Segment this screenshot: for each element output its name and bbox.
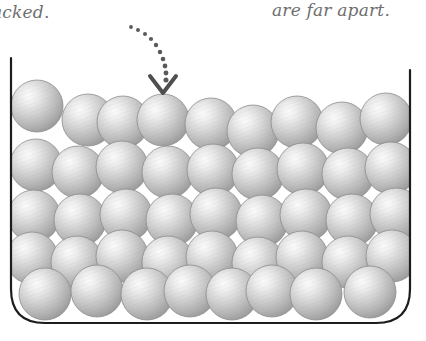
arrowhead-chevron-icon	[150, 76, 176, 93]
sphere-top-row-4	[137, 94, 189, 146]
dotted-arrow-annotation	[129, 25, 176, 93]
trail-dot	[164, 71, 169, 76]
sphere-second-row-6	[232, 148, 284, 200]
trail-dot	[161, 57, 166, 62]
sphere-second-row-3	[96, 141, 148, 193]
sphere-bottom-row-8	[344, 266, 396, 318]
sphere-bottom-row-2	[71, 265, 123, 317]
sphere-top-row-9	[360, 93, 412, 145]
dotted-trail	[129, 25, 168, 82]
figure-canvas: acked. are far apart.	[0, 0, 426, 341]
trail-dot	[136, 28, 140, 32]
particle-packing-illustration	[0, 0, 426, 341]
trail-dot	[129, 25, 133, 29]
sphere-top-row-7	[271, 96, 323, 148]
trail-dot	[149, 37, 153, 41]
sphere-second-row-4	[142, 146, 194, 198]
sphere-top-row-1	[11, 80, 63, 132]
sphere-bottom-row-1	[19, 268, 71, 320]
trail-dot	[158, 50, 163, 55]
trail-dot	[163, 64, 168, 69]
sphere-second-row-7	[277, 143, 329, 195]
sphere-bottom-row-7	[290, 268, 342, 320]
trail-dot	[163, 77, 168, 82]
trail-dot	[143, 32, 147, 36]
trail-dot	[154, 43, 158, 47]
sphere-group	[6, 80, 422, 320]
sphere-top-row-8	[316, 102, 368, 154]
